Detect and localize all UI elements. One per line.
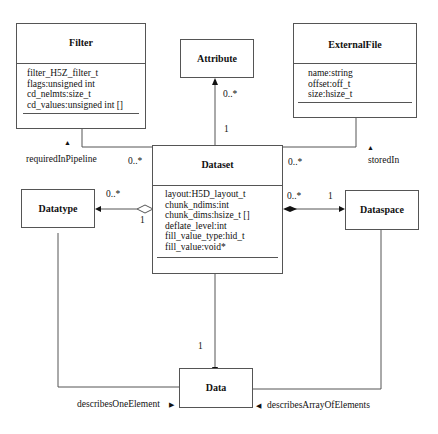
attribute: layout:H5D_layout_t — [165, 189, 250, 200]
divider — [153, 185, 282, 186]
multiplicity-label: 0..* — [106, 189, 120, 200]
multiplicity-label: 1 — [198, 341, 203, 352]
attribute: deflate_level:int — [165, 221, 250, 232]
role-arrow-icon: ◀ — [256, 401, 261, 412]
uml-diagram: Filter filter_H5Z_filter_t flags:unsigne… — [0, 0, 438, 434]
attribute: offset:off_t — [308, 79, 353, 90]
multiplicity-label: 1 — [224, 124, 229, 135]
class-filter: Filter filter_H5Z_filter_t flags:unsigne… — [16, 23, 146, 129]
attribute-list: layout:H5D_layout_t chunk_ndims:int chun… — [165, 189, 250, 252]
multiplicity-label: 0..* — [288, 157, 302, 168]
attribute-list: name:string offset:off_t size:hsize_t — [308, 68, 353, 100]
class-name: Data — [180, 382, 252, 393]
attribute: fill_value:void* — [165, 242, 250, 253]
role-arrow-icon: ▲ — [367, 143, 374, 154]
role-label-describes-one-element: describesOneElement — [77, 399, 160, 410]
attribute-list: filter_H5Z_filter_t flags:unsigned int c… — [27, 68, 123, 110]
role-arrow-icon: ▶ — [169, 400, 174, 411]
class-attribute: Attribute — [180, 39, 254, 78]
attribute: cd_values:unsigned int [] — [27, 100, 123, 111]
class-datatype: Datatype — [21, 189, 95, 228]
role-label-required-in-pipeline: requiredInPipeline — [26, 154, 97, 165]
role-label-describes-array-of-elements: describesArrayOfElements — [267, 400, 370, 411]
class-name: ExternalFile — [294, 39, 416, 50]
divider — [294, 63, 416, 64]
multiplicity-label: 0..* — [223, 89, 237, 100]
attribute: flags:unsigned int — [27, 79, 123, 90]
attribute: cd_nelmts:size_t — [27, 89, 123, 100]
multiplicity-label: 1 — [328, 191, 333, 202]
class-name: Filter — [17, 37, 145, 48]
attribute: name:string — [308, 68, 353, 79]
class-name: Dataspace — [346, 204, 418, 215]
class-dataset: Dataset layout:H5D_layout_t chunk_ndims:… — [152, 145, 283, 274]
class-name: Dataset — [153, 159, 282, 170]
class-data: Data — [179, 368, 253, 408]
divider — [298, 102, 412, 103]
attribute: chunk_dims:hsize_t [] — [165, 210, 250, 221]
divider — [23, 113, 139, 114]
role-label-stored-in: storedIn — [368, 155, 399, 166]
attribute: filter_H5Z_filter_t — [27, 68, 123, 79]
class-name: Datatype — [22, 203, 94, 214]
role-arrow-icon: ▲ — [64, 138, 71, 149]
multiplicity-label: 0..* — [287, 191, 301, 202]
divider — [157, 257, 278, 258]
class-name: Attribute — [181, 53, 253, 64]
attribute: fill_value_type:hid_t — [165, 231, 250, 242]
class-external-file: ExternalFile name:string offset:off_t si… — [293, 23, 417, 118]
attribute: size:hsize_t — [308, 89, 353, 100]
divider — [17, 63, 145, 64]
class-dataspace: Dataspace — [345, 190, 419, 230]
multiplicity-label: 0..* — [128, 156, 142, 167]
attribute: chunk_ndims:int — [165, 200, 250, 211]
multiplicity-label: 1 — [140, 215, 145, 226]
